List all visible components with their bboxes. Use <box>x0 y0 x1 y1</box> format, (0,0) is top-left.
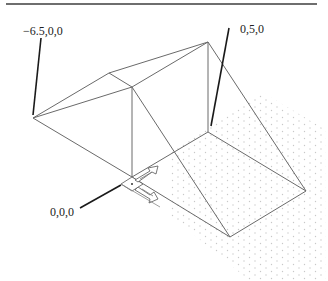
label-origin-point: 0,0,0 <box>50 206 74 218</box>
leader-left <box>33 38 41 115</box>
label-left-point: −6.5,0,0 <box>23 25 63 37</box>
leader-right <box>211 28 229 126</box>
label-right-point: 0,5,0 <box>240 23 264 35</box>
wireframe-drawing <box>0 0 328 281</box>
leader-origin <box>80 185 121 208</box>
